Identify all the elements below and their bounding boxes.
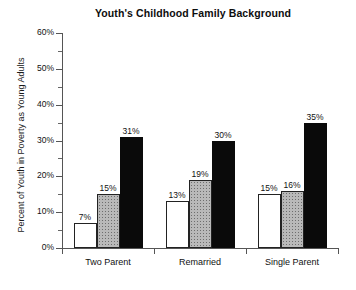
plot-area: 7%15%31%13%19%30%15%16%35%	[62, 33, 338, 248]
bar-value-label: 35%	[299, 112, 332, 122]
x-tick	[62, 248, 63, 254]
x-group-label: Two Parent	[62, 257, 154, 267]
y-axis-title: Percent of Youth in Poverty as Young Adu…	[16, 35, 26, 255]
y-tick-label: 60%	[37, 27, 54, 37]
bar-black-remarried	[212, 141, 235, 249]
x-tick	[246, 248, 247, 254]
y-tick-label: 30%	[37, 135, 54, 145]
bar-value-label: 30%	[207, 130, 240, 140]
y-tick-label: 0%	[42, 242, 54, 252]
bar-gray-remarried	[189, 180, 212, 248]
bar-black-two-parent	[120, 137, 143, 248]
y-tick-label: 40%	[37, 99, 54, 109]
chart-figure: Youth's Childhood Family Background Perc…	[0, 0, 356, 290]
bar-gray-two-parent	[97, 194, 120, 248]
y-tick-label: 50%	[37, 63, 54, 73]
bar-white-two-parent	[74, 223, 97, 248]
bar-white-remarried	[166, 201, 189, 248]
x-axis-line	[62, 248, 339, 249]
bar-gray-single-parent	[281, 191, 304, 248]
x-tick	[154, 248, 155, 254]
x-group-label: Remarried	[154, 257, 246, 267]
y-tick-label: 20%	[37, 170, 54, 180]
y-tick-label: 10%	[37, 206, 54, 216]
bar-value-label: 31%	[115, 126, 148, 136]
bar-white-single-parent	[258, 194, 281, 248]
chart-title: Youth's Childhood Family Background	[62, 7, 324, 19]
bar-black-single-parent	[304, 123, 327, 248]
x-group-label: Single Parent	[246, 257, 338, 267]
x-tick	[338, 248, 339, 254]
